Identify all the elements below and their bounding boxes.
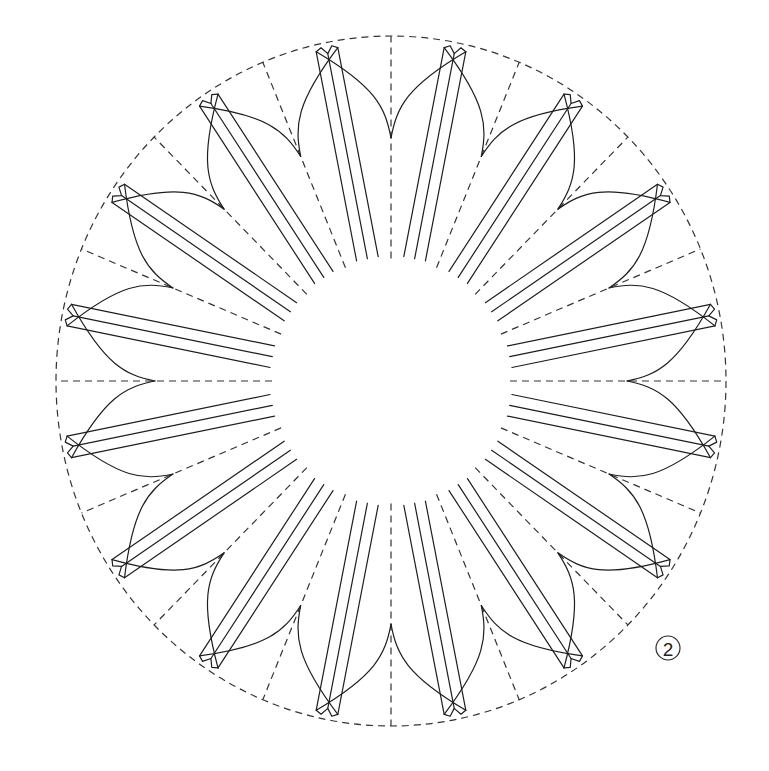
fold-line xyxy=(67,326,270,368)
step-number-text: 2 xyxy=(663,639,674,660)
petal xyxy=(485,441,670,578)
fold-line xyxy=(73,316,272,357)
dashed-valley-radials xyxy=(56,36,726,726)
petal-outline-curve xyxy=(391,624,466,710)
fold-line xyxy=(512,326,715,368)
petal-outline-curve xyxy=(444,48,484,157)
fold-line xyxy=(67,395,270,437)
petal xyxy=(449,479,582,668)
petal-outline-curve xyxy=(125,474,173,578)
fold-line xyxy=(425,501,465,710)
petal-outline-curve xyxy=(67,436,173,477)
petal xyxy=(391,501,484,716)
fold-line xyxy=(458,103,571,277)
fold-line xyxy=(404,48,444,257)
petal xyxy=(449,94,582,283)
petal-outline-curve xyxy=(200,606,301,656)
dashed-radial-line xyxy=(263,494,346,700)
petal-outline-curve xyxy=(200,106,301,156)
petal-outline-curve xyxy=(72,381,155,458)
petal-fold-diagram: 2 xyxy=(0,0,769,771)
petal-outline-curve xyxy=(391,52,466,138)
fold-line xyxy=(316,501,356,710)
fold-line xyxy=(338,505,378,714)
fold-line xyxy=(112,441,284,559)
fold-line xyxy=(425,52,465,261)
petal-outline-curve xyxy=(72,304,155,381)
dashed-radial-line xyxy=(501,428,701,513)
petal-outline-curve xyxy=(627,304,710,381)
petal xyxy=(507,285,716,381)
fold-line xyxy=(200,479,315,656)
petal-outline-curve xyxy=(67,285,173,326)
fold-line xyxy=(72,304,275,346)
petal-outline-curve xyxy=(481,106,582,156)
fold-line xyxy=(122,196,291,312)
petal xyxy=(65,285,274,381)
dashed-radial-line xyxy=(437,494,520,700)
fold-line xyxy=(404,505,444,714)
fold-line xyxy=(211,103,324,277)
petal-outline-curve xyxy=(298,606,338,715)
fold-line xyxy=(507,416,710,458)
petal-outline-curve xyxy=(444,606,484,715)
outer-dashed-circle xyxy=(56,36,726,726)
fold-line xyxy=(112,202,284,320)
fold-line xyxy=(122,450,291,566)
fold-line xyxy=(449,94,564,271)
dashed-radial-line xyxy=(263,62,346,268)
fold-line xyxy=(218,491,333,668)
fold-line xyxy=(510,316,709,357)
petal-outline-curve xyxy=(298,48,338,157)
petal xyxy=(507,381,716,477)
petal xyxy=(112,184,297,321)
petal xyxy=(200,94,333,283)
fold-line xyxy=(211,485,324,659)
fold-line xyxy=(218,94,333,271)
fold-line xyxy=(467,106,582,283)
petal-outline-curve xyxy=(609,285,715,326)
petal-outline-curve xyxy=(316,624,391,710)
petal-outline-curve xyxy=(627,381,710,458)
petal xyxy=(112,441,297,578)
petal-outline-curve xyxy=(316,52,391,138)
fold-line xyxy=(498,441,670,559)
fold-line xyxy=(316,52,356,261)
dashed-radial-line xyxy=(82,428,282,513)
petal xyxy=(200,479,333,668)
fold-line xyxy=(338,48,378,257)
petal-outline-curve xyxy=(609,474,657,578)
petal xyxy=(298,46,391,261)
petal-outline-curve xyxy=(125,184,173,288)
petal xyxy=(391,46,484,261)
fold-line xyxy=(200,106,315,283)
dashed-radial-line xyxy=(501,249,701,334)
fold-line xyxy=(492,196,661,312)
fold-line xyxy=(72,416,275,458)
petal-outline-curve xyxy=(609,436,715,477)
fold-line xyxy=(73,405,272,446)
petal xyxy=(65,381,274,477)
fold-line xyxy=(458,485,571,659)
petal-outline-curve xyxy=(481,606,582,656)
petal xyxy=(298,501,391,716)
petal-outline-curve xyxy=(609,184,657,288)
fold-line xyxy=(498,202,670,320)
fold-line xyxy=(492,450,661,566)
fold-line xyxy=(507,304,710,346)
step-number-badge: 2 xyxy=(656,636,680,660)
fold-line xyxy=(512,395,715,437)
fold-line xyxy=(467,479,582,656)
petal xyxy=(485,184,670,321)
dashed-radial-line xyxy=(82,249,282,334)
dashed-radial-line xyxy=(437,62,520,268)
fold-line xyxy=(510,405,709,446)
outer-dashed-circle xyxy=(56,36,726,726)
fold-line xyxy=(449,491,564,668)
